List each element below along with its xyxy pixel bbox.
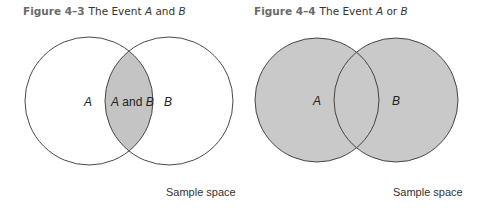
label-a: A — [83, 95, 92, 109]
sample-space-label: Sample space — [166, 186, 236, 198]
venn-diagrams: A A and B B A B — [0, 0, 481, 208]
venn-intersection-diagram: A A and B B — [25, 37, 233, 165]
venn-union-diagram: A B — [255, 38, 458, 162]
label-a: A — [312, 94, 321, 108]
label-b: B — [164, 95, 172, 109]
label-a-and-b: A and B — [110, 95, 154, 109]
label-b: B — [392, 94, 400, 108]
sample-space-label: Sample space — [393, 186, 463, 198]
